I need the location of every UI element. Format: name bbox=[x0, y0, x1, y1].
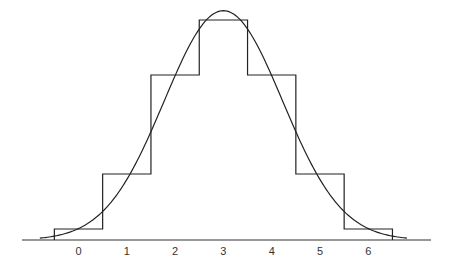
x-tick-label-4: 4 bbox=[269, 245, 275, 257]
x-tick-label-2: 2 bbox=[172, 245, 178, 257]
normal-curve bbox=[40, 11, 407, 238]
x-tick-labels: 0123456 bbox=[75, 245, 371, 257]
x-tick-label-3: 3 bbox=[220, 245, 226, 257]
x-tick-label-1: 1 bbox=[124, 245, 130, 257]
histogram-normal-chart: 0123456 bbox=[0, 0, 451, 267]
histogram-steps bbox=[54, 20, 392, 240]
x-tick-label-6: 6 bbox=[365, 245, 371, 257]
x-tick-label-0: 0 bbox=[75, 245, 81, 257]
x-tick-label-5: 5 bbox=[317, 245, 323, 257]
